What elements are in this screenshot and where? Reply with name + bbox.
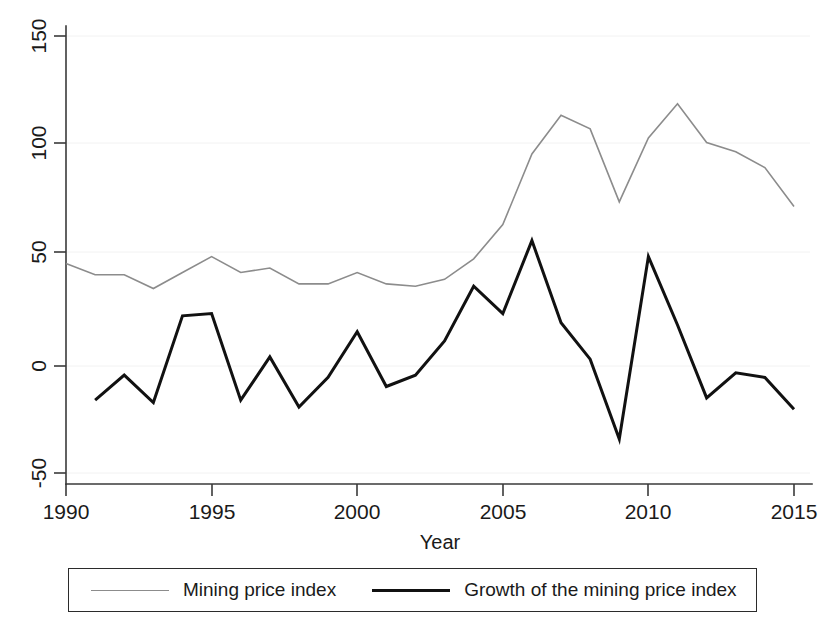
y-tick-label-150: 150 <box>27 18 50 53</box>
chart-figure: 150 100 50 0 -50 1990 1995 2000 2005 201… <box>0 0 821 624</box>
legend-label-growth-mining-price-index: Growth of the mining price index <box>464 579 736 601</box>
y-tick-label-50: 50 <box>27 240 50 263</box>
y-tick-label-0: 0 <box>27 360 50 372</box>
x-tick-label-2010: 2010 <box>625 500 672 523</box>
legend-swatch-mining-price-index <box>91 590 169 591</box>
y-axis-ticks <box>54 36 66 473</box>
y-tick-label-minus50: -50 <box>27 458 50 488</box>
y-tick-label-100: 100 <box>27 125 50 160</box>
series-group <box>66 104 794 439</box>
legend-swatch-growth-mining-price-index <box>372 589 450 592</box>
x-axis-title: Year <box>420 531 461 553</box>
legend-label-mining-price-index: Mining price index <box>183 579 336 601</box>
x-axis-tick-labels: 1990 1995 2000 2005 2010 2015 <box>43 500 818 523</box>
x-tick-label-2015: 2015 <box>771 500 818 523</box>
series-line-mining-price-index <box>66 104 794 289</box>
x-tick-label-1995: 1995 <box>189 500 236 523</box>
x-tick-label-2000: 2000 <box>334 500 381 523</box>
y-axis-tick-labels: 150 100 50 0 -50 <box>27 18 50 488</box>
x-tick-label-2005: 2005 <box>480 500 527 523</box>
legend-item-mining-price-index: Mining price index <box>91 569 336 611</box>
x-axis-ticks <box>66 484 794 496</box>
chart-legend: Mining price index Growth of the mining … <box>68 568 757 612</box>
x-tick-label-1990: 1990 <box>43 500 90 523</box>
legend-item-growth-mining-price-index: Growth of the mining price index <box>372 569 736 611</box>
gridlines <box>66 36 810 473</box>
line-chart-plot: 150 100 50 0 -50 1990 1995 2000 2005 201… <box>0 0 821 624</box>
series-line-growth-mining-price-index <box>95 241 794 439</box>
